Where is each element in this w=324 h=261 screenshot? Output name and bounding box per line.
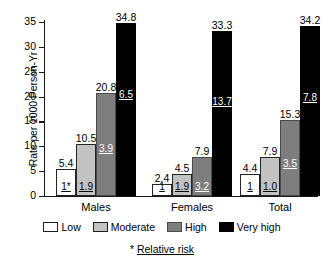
relative-risk-label: 3.9 [99,143,113,154]
bar-value-label: 34.2 [300,14,320,26]
legend: LowModerateHighVery high [0,221,324,233]
bar-value-label: 4.5 [175,162,190,174]
relative-risk-label: 7.8 [303,92,317,103]
y-tick-label: 20 [24,90,36,103]
relative-risk-label: 3.2 [195,181,209,192]
y-tick-label: 0 [30,189,36,202]
y-tick-label: 25 [24,65,36,78]
relative-risk-label: 1 [247,181,253,192]
bar-value-label: 20.8 [96,81,116,93]
legend-swatch-icon [167,222,182,232]
bar-value-label: 7.9 [263,145,278,157]
footnote-asterisk: * [130,243,134,255]
legend-item-low[interactable]: Low [43,221,80,233]
relative-risk-label: 1.9 [79,181,93,192]
bar-females-moderate: 4.51.9 [172,174,192,196]
bar-value-label: 10.5 [76,132,96,144]
relative-risk-label: 1 [159,181,165,192]
legend-swatch-icon [43,222,58,232]
bar-males-high: 20.83.9 [96,93,116,196]
category-label-total: Total [268,201,291,214]
bar-total-moderate: 7.91.0 [260,157,280,196]
footnote-text: Relative risk [137,243,194,255]
bar-value-label: 34.8 [116,11,136,23]
y-tick-label: 30 [24,40,36,53]
bar-value-label: 15.3 [280,108,300,120]
plot-area: 05101520253035 5.41*10.51.920.83.934.86.… [44,20,320,197]
relative-risk-label: 3.5 [283,158,297,169]
y-tick-label: 15 [24,114,36,127]
bar-value-label: 33.3 [212,19,232,31]
legend-item-very-high[interactable]: Very high [219,221,281,233]
bar-females-very-high: 33.313.7 [212,31,232,197]
bar-males-very-high: 34.86.5 [116,23,136,196]
relative-risk-label: 13.7 [212,96,231,107]
category-label-females: Females [171,201,213,214]
bar-total-very-high: 34.27.8 [300,26,320,196]
relative-risk-label: 1.9 [175,181,189,192]
bar-total-low: 4.41 [240,174,260,196]
legend-swatch-icon [219,222,234,232]
bar-value-label: 7.9 [195,145,210,157]
bar-females-low: 2.41 [152,184,172,196]
bar-chart: Rate per 1000 Person-Yr 05101520253035 5… [0,0,324,261]
relative-risk-label: 1* [61,181,70,192]
bar-total-high: 15.33.5 [280,120,300,196]
legend-item-high[interactable]: High [167,221,207,233]
y-tick-label: 10 [24,139,36,152]
bar-value-label: 5.4 [59,157,74,169]
legend-label: High [185,221,207,233]
bar-males-moderate: 10.51.9 [76,144,96,196]
bar-males-low: 5.41* [56,169,76,196]
relative-risk-label: 1.0 [263,181,277,192]
legend-swatch-icon [93,222,108,232]
relative-risk-label: 6.5 [119,89,133,100]
y-tick-label: 5 [30,164,36,177]
bar-value-label: 4.4 [243,162,258,174]
legend-label: Low [61,221,80,233]
bars-layer: 5.41*10.51.920.83.934.86.52.414.51.97.93… [44,20,320,197]
legend-label: Very high [237,221,281,233]
category-label-males: Males [81,201,110,214]
legend-item-moderate[interactable]: Moderate [93,221,155,233]
bar-females-high: 7.93.2 [192,157,212,196]
legend-label: Moderate [111,221,155,233]
footnote: * Relative risk [0,243,324,256]
y-tick-label: 35 [24,15,36,28]
